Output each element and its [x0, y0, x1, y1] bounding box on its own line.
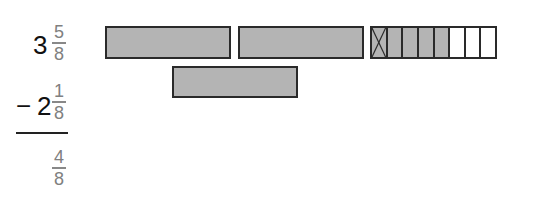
- minuend-denominator: 8: [54, 44, 64, 63]
- subtrahend-denominator: 8: [54, 103, 64, 122]
- eighth-cell-empty: [481, 28, 495, 57]
- difference-numerator: 4: [54, 148, 64, 167]
- eighth-cell-shaded: [388, 28, 404, 57]
- eighth-cell-shaded: [435, 28, 451, 57]
- subtrahend-fraction: 1 8: [52, 82, 66, 122]
- minus-sign: −: [16, 93, 31, 119]
- subtrahend-whole: 2: [37, 93, 51, 119]
- eighth-cell-crossed: [372, 28, 388, 57]
- difference-denominator: 8: [54, 169, 64, 188]
- minuend-numerator: 5: [54, 23, 64, 42]
- subtracted-whole-bar: [172, 66, 298, 98]
- whole-bar-1: [105, 26, 231, 59]
- difference-fraction: 4 8: [52, 148, 66, 188]
- cross-out-icon: [372, 28, 386, 57]
- minuend-whole: 3: [33, 32, 47, 58]
- subtrahend-numerator: 1: [54, 82, 64, 101]
- eighth-cell-empty: [450, 28, 466, 57]
- eighth-cell-shaded: [403, 28, 419, 57]
- answer-rule: [16, 132, 68, 134]
- eighth-cell-empty: [466, 28, 482, 57]
- eighths-bar: [370, 26, 497, 59]
- whole-bar-2: [238, 26, 364, 59]
- eighth-cell-shaded: [419, 28, 435, 57]
- minuend-fraction: 5 8: [52, 23, 66, 63]
